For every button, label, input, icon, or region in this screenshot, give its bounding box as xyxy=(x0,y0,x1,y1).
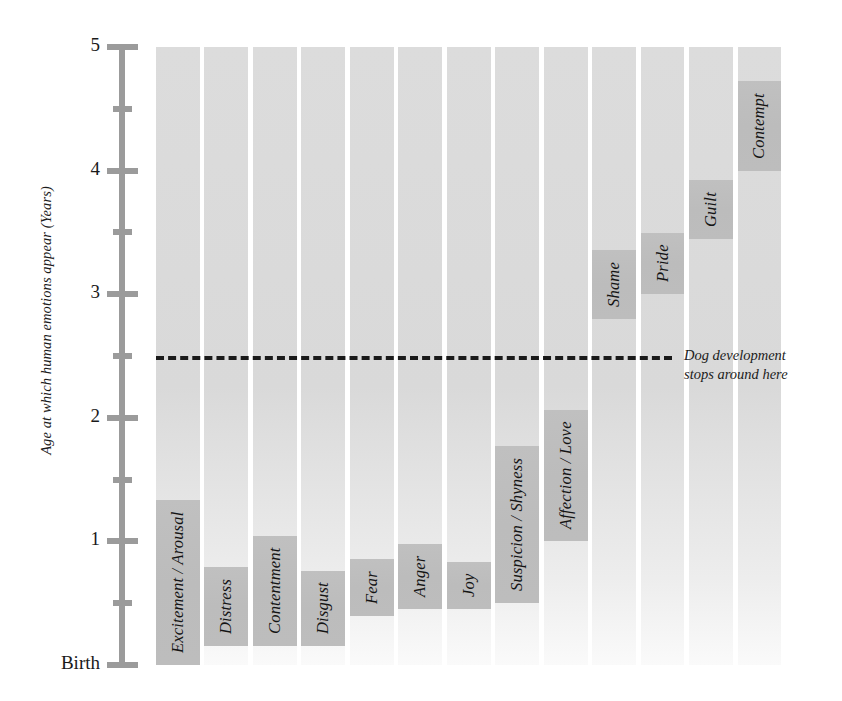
bar-label: Pride xyxy=(653,245,673,283)
bar-label-box: Shame xyxy=(592,250,636,319)
dog-development-note: Dog development stops around here xyxy=(684,346,788,383)
bar-label-box: Pride xyxy=(641,233,685,295)
bar-label: Guilt xyxy=(701,192,721,227)
bar-label: Affection / Love xyxy=(556,422,576,530)
bar-label: Fear xyxy=(362,571,382,604)
bar-label: Anger xyxy=(410,556,430,597)
bar-label: Suspicion / Shyness xyxy=(507,458,527,591)
bar-label: Distress xyxy=(216,579,236,634)
bar-label-box: Joy xyxy=(447,562,491,610)
bar-label: Shame xyxy=(604,262,624,307)
bar-label-box: Anger xyxy=(398,544,442,609)
bar-label-box: Excitement / Arousal xyxy=(156,500,200,665)
bar-label-box: Distress xyxy=(204,567,248,646)
bar-label: Disgust xyxy=(313,583,333,635)
emotion-development-chart: Age at which human emotions appear (Year… xyxy=(0,0,842,701)
bar-label: Contempt xyxy=(749,93,769,159)
bar-label-box: Contempt xyxy=(738,81,782,171)
bar-label: Joy xyxy=(459,574,479,598)
bar-label: Contentment xyxy=(265,548,285,635)
bar-label: Excitement / Arousal xyxy=(168,512,188,653)
bar-label-box: Suspicion / Shyness xyxy=(495,446,539,603)
bar-label-box: Fear xyxy=(350,559,394,616)
dog-development-line xyxy=(156,356,672,360)
bar-label-box: Guilt xyxy=(689,180,733,239)
bar-label-box: Contentment xyxy=(253,536,297,647)
bar-label-box: Affection / Love xyxy=(544,410,588,542)
bar-label-box: Disgust xyxy=(301,571,345,647)
